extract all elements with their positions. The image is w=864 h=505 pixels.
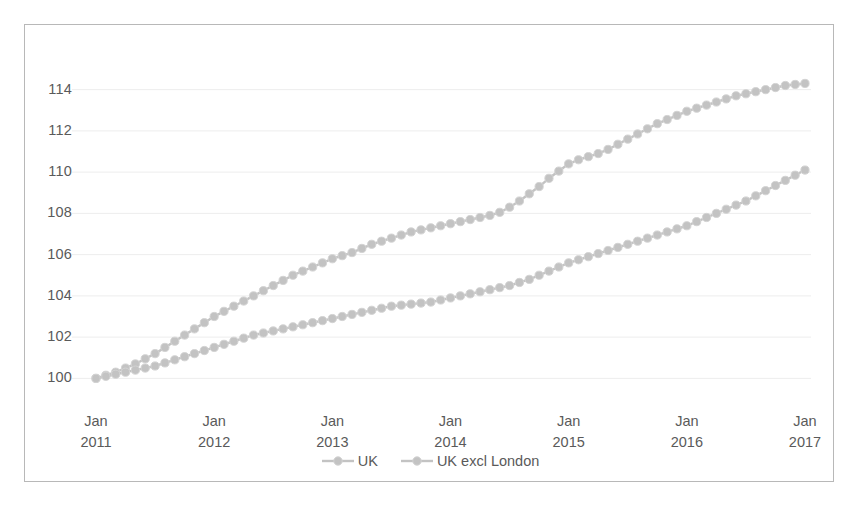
- legend-item[interactable]: UK: [321, 453, 378, 469]
- legend-label: UK excl London: [437, 453, 539, 469]
- x-tick-year: 2015: [524, 432, 614, 453]
- x-tick-label: Jan2012: [169, 411, 259, 452]
- x-tick-label: Jan2016: [642, 411, 732, 452]
- x-tick-month: Jan: [524, 411, 614, 432]
- x-tick-label: Jan2014: [406, 411, 496, 452]
- x-tick-month: Jan: [287, 411, 377, 432]
- x-tick-month: Jan: [642, 411, 732, 432]
- x-tick-year: 2012: [169, 432, 259, 453]
- x-tick-label: Jan2017: [760, 411, 850, 452]
- x-tick-year: 2014: [406, 432, 496, 453]
- x-tick-year: 2017: [760, 432, 850, 453]
- x-tick-label: Jan2011: [51, 411, 141, 452]
- legend-item[interactable]: UK excl London: [400, 453, 539, 469]
- x-tick-month: Jan: [760, 411, 850, 432]
- legend-marker-icon: [321, 455, 355, 467]
- legend-marker-icon: [400, 455, 434, 467]
- x-tick-month: Jan: [406, 411, 496, 432]
- x-tick-month: Jan: [51, 411, 141, 432]
- x-tick-month: Jan: [169, 411, 259, 432]
- chart-figure: 100102104106108110112114 Jan2011Jan2012J…: [24, 24, 834, 482]
- x-axis: Jan2011Jan2012Jan2013Jan2014Jan2015Jan20…: [25, 25, 835, 483]
- legend-label: UK: [358, 453, 378, 469]
- x-tick-label: Jan2013: [287, 411, 377, 452]
- chart-legend: UKUK excl London: [25, 453, 835, 469]
- x-tick-label: Jan2015: [524, 411, 614, 452]
- x-tick-year: 2013: [287, 432, 377, 453]
- x-tick-year: 2011: [51, 432, 141, 453]
- x-tick-year: 2016: [642, 432, 732, 453]
